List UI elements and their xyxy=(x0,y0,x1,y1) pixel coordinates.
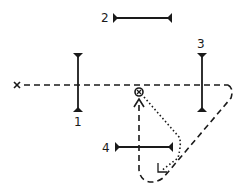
mirror-3-label: 3 xyxy=(197,38,205,50)
dotted-beam xyxy=(144,97,180,171)
mirror-2 xyxy=(113,13,172,23)
mirror-4 xyxy=(115,142,173,152)
mirror-1-label: 1 xyxy=(74,116,82,128)
circled-x-icon xyxy=(135,88,143,96)
mirror-4-label: 4 xyxy=(102,142,110,154)
source-x-marker xyxy=(14,82,20,88)
diagram-canvas xyxy=(0,0,244,193)
mirror-2-label: 2 xyxy=(101,12,109,24)
dashed-beam-return xyxy=(139,85,232,182)
arrow-down-left-icon xyxy=(158,163,167,172)
mirror-1 xyxy=(73,53,83,112)
mirror-3 xyxy=(197,53,207,112)
